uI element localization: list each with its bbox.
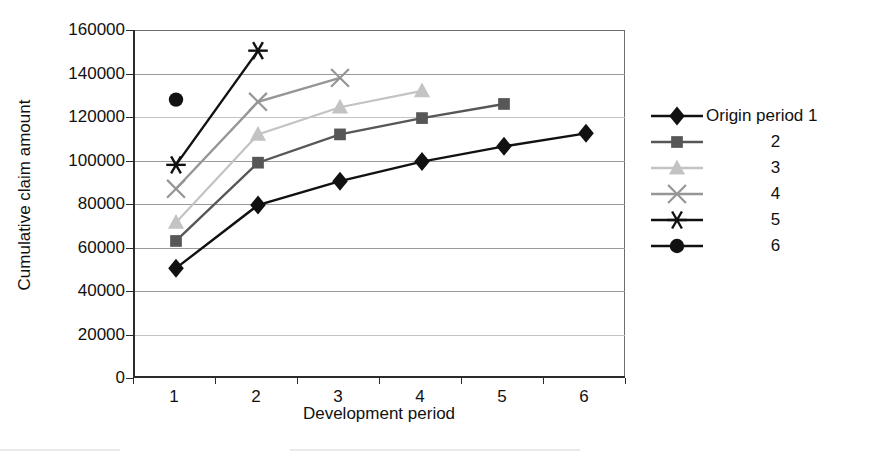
cross-x-marker (249, 93, 267, 111)
asterisk-marker (667, 211, 687, 228)
y-axis-tick-mark (126, 291, 133, 292)
diamond-marker (578, 124, 594, 143)
y-axis-tick-label: 80000 (5, 194, 125, 214)
x-axis-title: Development period (133, 404, 625, 424)
y-axis-tick-mark (126, 378, 133, 379)
cross-x-icon (648, 181, 706, 207)
triangle-marker (414, 82, 430, 97)
plot-area (133, 30, 625, 378)
legend-label: Origin period 1 (706, 106, 818, 126)
series-line (176, 91, 422, 223)
y-axis-tick-label: 40000 (5, 281, 125, 301)
asterisk-icon (648, 207, 706, 233)
y-axis-tick-label: 120000 (5, 107, 125, 127)
diamond-marker (496, 137, 512, 156)
series-6 (169, 92, 183, 106)
legend-item-4[interactable]: 4 (648, 181, 863, 207)
y-axis-tick-label: 140000 (5, 64, 125, 84)
diamond-marker (250, 196, 266, 215)
diamond-marker (168, 259, 184, 278)
asterisk-marker (166, 156, 186, 173)
y-axis-tick-mark (126, 74, 133, 75)
legend-label: 2 (706, 132, 863, 152)
x-axis-tick-mark (379, 378, 380, 384)
y-axis-tick-label: 0 (5, 368, 125, 388)
square-marker (252, 157, 264, 169)
square-marker (170, 235, 182, 247)
y-axis-tick-mark (126, 248, 133, 249)
x-axis-tick-mark (461, 378, 462, 384)
series-layer (135, 30, 627, 378)
x-axis-tick-mark (215, 378, 216, 384)
y-axis-tick-label: 20000 (5, 325, 125, 345)
square-marker (416, 112, 428, 124)
legend-label: 3 (706, 158, 863, 178)
diamond-marker (332, 172, 348, 191)
x-axis-tick-mark (543, 378, 544, 384)
diamond-icon (648, 103, 706, 129)
circle-marker (169, 92, 183, 106)
legend-label: 4 (706, 184, 863, 204)
y-axis-tick-label: 100000 (5, 151, 125, 171)
square-marker (498, 98, 510, 110)
triangle-icon (648, 155, 706, 181)
cross-x-marker (167, 180, 185, 198)
x-axis-tick-mark (297, 378, 298, 384)
scan-artifact-mid (290, 449, 580, 451)
series-line (176, 133, 586, 268)
legend-label: 5 (706, 210, 863, 230)
asterisk-marker (248, 42, 268, 59)
y-axis-tick-mark (126, 30, 133, 31)
legend-item-6[interactable]: 6 (648, 233, 863, 259)
series-1 (168, 124, 594, 278)
y-axis-tick-label: 160000 (5, 20, 125, 40)
y-axis-tick-mark (126, 204, 133, 205)
scan-artifact-left (0, 449, 120, 451)
y-axis-tick-mark (126, 335, 133, 336)
x-axis-tick-mark (625, 378, 626, 384)
legend-item-3[interactable]: 3 (648, 155, 863, 181)
square-marker (334, 129, 346, 141)
y-axis-tick-mark (126, 161, 133, 162)
legend-label: 6 (706, 236, 863, 256)
diamond-marker (414, 152, 430, 171)
chart-legend: Origin period 123456 (648, 103, 863, 259)
circle-icon (648, 233, 706, 259)
x-axis-tick-mark (133, 378, 134, 384)
cross-x-marker (331, 69, 349, 87)
circle-marker (670, 239, 684, 253)
legend-item-1[interactable]: Origin period 1 (648, 103, 863, 129)
legend-item-5[interactable]: 5 (648, 207, 863, 233)
square-icon (648, 129, 706, 155)
diamond-marker (669, 107, 685, 126)
y-axis-tick-mark (126, 117, 133, 118)
legend-item-2[interactable]: 2 (648, 129, 863, 155)
square-marker (671, 136, 683, 148)
chart-figure: Cumulative claim amount 0200004000060000… (0, 0, 871, 456)
y-axis-tick-label: 60000 (5, 238, 125, 258)
